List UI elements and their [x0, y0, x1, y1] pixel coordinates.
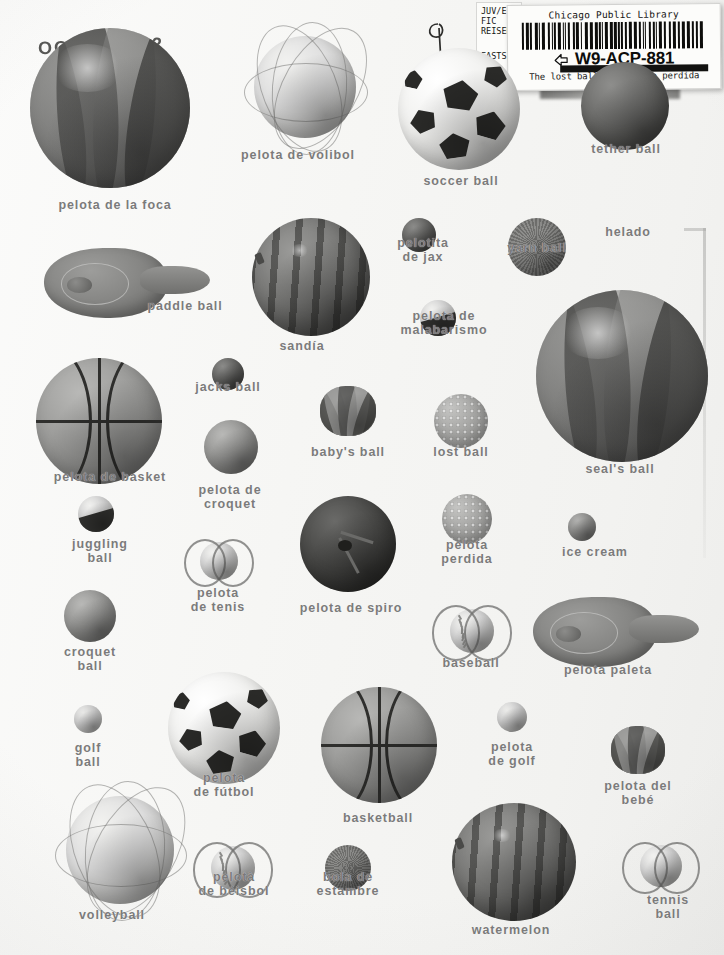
label-ice-cream: ice cream [562, 545, 628, 559]
label-baseball: baseball [442, 656, 499, 670]
label-pelotita-de-jax: pelotita de jax [397, 236, 449, 264]
label-helado: helado [605, 225, 651, 239]
illustration-ice-cream [568, 513, 596, 541]
label-croquet-ball: croquet ball [64, 645, 116, 673]
label-tennis-ball: tennis ball [640, 893, 696, 921]
label-juggling-ball: juggling ball [72, 537, 128, 565]
illustration-volleyball [66, 796, 174, 904]
label-volleyball: volleyball [79, 908, 145, 922]
illustration-juggling-ball [78, 496, 114, 532]
illustration-seals-ball [536, 290, 708, 462]
illustration-tether-ball [581, 62, 669, 150]
scanned-book-page: OCT 2002 JUV/E FIC REISER EASTSI Chicago… [0, 0, 724, 955]
label-seals-ball: seal's ball [585, 462, 654, 476]
illustration-pelota-de-croquet [204, 420, 258, 474]
illustration-pelota-del-bebe [611, 726, 665, 774]
illustration-lost-ball [434, 394, 488, 448]
label-basketball: basketball [343, 811, 413, 825]
illustration-sandia [252, 218, 370, 336]
label-bola-de-estambre: bola de estambre [317, 870, 380, 898]
label-jacks-ball: jacks ball [195, 380, 260, 394]
page-edge-artifact-top [684, 228, 706, 231]
label-pelota-de-malabarismo: pelota de malabarismo [400, 309, 487, 337]
illustration-soccer-ball [398, 48, 520, 170]
illustration-croquet-ball [64, 590, 116, 642]
label-watermelon: watermelon [472, 923, 550, 937]
label-pelota-de-volibol: pelota de volibol [241, 148, 355, 162]
hand-pointing-icon [554, 53, 568, 66]
label-pelota-de-la-foca: pelota de la foca [58, 198, 171, 212]
label-pelota-de-futbol: pelota de fútbol [194, 771, 255, 799]
label-soccer-ball: soccer ball [423, 174, 498, 188]
label-lost-ball: lost ball [433, 445, 488, 459]
label-paddle-ball: paddle ball [147, 299, 222, 313]
illustration-pelota-de-tenis [200, 542, 238, 580]
label-pelota-de-croquet: pelota de croquet [199, 483, 262, 511]
illustration-baseball [450, 609, 494, 653]
label-pelota-perdida: pelota perdida [441, 538, 492, 566]
label-yarn-ball: yarn ball [507, 241, 567, 255]
illustration-pelota-de-la-foca [30, 28, 190, 188]
illustration-babys-ball [320, 386, 376, 436]
illustration-pelota-de-spiro [300, 496, 396, 592]
label-sandia: sandía [280, 339, 325, 353]
label-golf-ball: golf ball [75, 741, 102, 769]
label-babys-ball: baby's ball [311, 445, 385, 459]
illustration-pelota-de-volibol [254, 36, 356, 138]
illustration-tennis-ball [640, 845, 682, 887]
illustration-pelota-paleta [533, 597, 699, 667]
label-tether-ball: tether ball [591, 142, 661, 156]
label-pelota-de-spiro: pelota de spiro [300, 601, 402, 615]
label-pelota-de-golf: pelota de golf [488, 740, 535, 768]
label-pelota-paleta: pelota paleta [564, 663, 652, 677]
library-name: Chicago Public Library [508, 8, 720, 21]
label-pelota-de-tenis: pelota de tenis [191, 586, 245, 614]
illustration-basketball [321, 687, 437, 803]
illustration-pelota-de-basket [36, 358, 162, 484]
barcode [522, 21, 704, 50]
illustration-pelota-de-golf [497, 702, 527, 732]
illustration-pelota-de-futbol [168, 672, 280, 784]
illustration-golf-ball [74, 705, 102, 733]
label-pelota-de-basket: pelota de basket [54, 470, 166, 484]
label-pelota-del-bebe: pelota del bebé [595, 779, 681, 807]
label-pelota-de-beisbol: pelotà de béisbol [199, 870, 270, 898]
illustration-pelota-perdida [442, 494, 492, 544]
illustration-watermelon [452, 803, 576, 921]
